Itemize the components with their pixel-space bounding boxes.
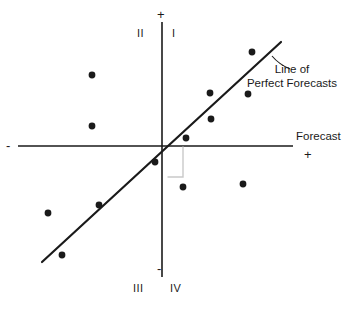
scatter-point <box>180 184 187 191</box>
y-axis-negative-sign: - <box>157 262 161 275</box>
quadrant-label-iii: III <box>133 283 144 294</box>
forecast-quadrant-figure: + - - + Forecast II I III IV Line of Per… <box>0 0 347 309</box>
forecast-error-bracket <box>168 147 183 177</box>
scatter-point <box>59 252 66 259</box>
scatter-point <box>89 123 96 130</box>
x-axis-positive-sign: + <box>304 148 312 161</box>
plot-canvas <box>0 0 347 309</box>
scatter-point <box>207 90 214 97</box>
quadrant-label-ii: II <box>137 28 144 39</box>
scatter-point <box>249 49 256 56</box>
scatter-point <box>245 91 252 98</box>
line-of-perfect-forecasts-label: Line of Perfect Forecasts <box>247 62 337 91</box>
y-axis-positive-sign: + <box>157 8 165 21</box>
x-axis-title: Forecast <box>296 131 341 143</box>
scatter-point <box>240 181 247 188</box>
scatter-point <box>96 202 103 209</box>
callout-line-1: Line of <box>247 62 337 76</box>
scatter-point <box>89 72 96 79</box>
callout-line-2: Perfect Forecasts <box>247 76 337 90</box>
scatter-points <box>45 49 256 259</box>
quadrant-label-iv: IV <box>170 283 181 294</box>
scatter-point <box>152 159 159 166</box>
scatter-point <box>45 210 52 217</box>
quadrant-label-i: I <box>172 28 176 39</box>
scatter-point <box>183 135 190 142</box>
scatter-point <box>208 116 215 123</box>
x-axis-negative-sign: - <box>6 139 10 152</box>
